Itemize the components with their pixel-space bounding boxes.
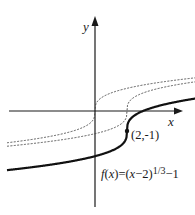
point-label: (2,-1) bbox=[131, 128, 159, 142]
point-marker bbox=[125, 129, 129, 133]
func-shift: −2) bbox=[135, 167, 152, 181]
func-tail: −1 bbox=[165, 167, 178, 181]
x-axis-arrow-icon bbox=[174, 108, 183, 115]
curve-cbrt-x-minus-2 bbox=[7, 80, 195, 146]
function-graph: y x (2,-1) f(x)=(x−2)1/3−1 bbox=[0, 0, 195, 215]
curve-cbrt-x bbox=[7, 77, 195, 143]
y-axis-label: y bbox=[81, 19, 89, 34]
x-axis bbox=[9, 108, 183, 115]
func-eq: )=( bbox=[114, 167, 129, 181]
function-label: f(x)=(x−2)1/3−1 bbox=[101, 165, 179, 181]
curve-f bbox=[7, 97, 195, 170]
x-axis-label: x bbox=[167, 114, 174, 129]
func-exponent: 1/3 bbox=[153, 165, 166, 176]
y-axis-arrow-icon bbox=[92, 16, 99, 26]
